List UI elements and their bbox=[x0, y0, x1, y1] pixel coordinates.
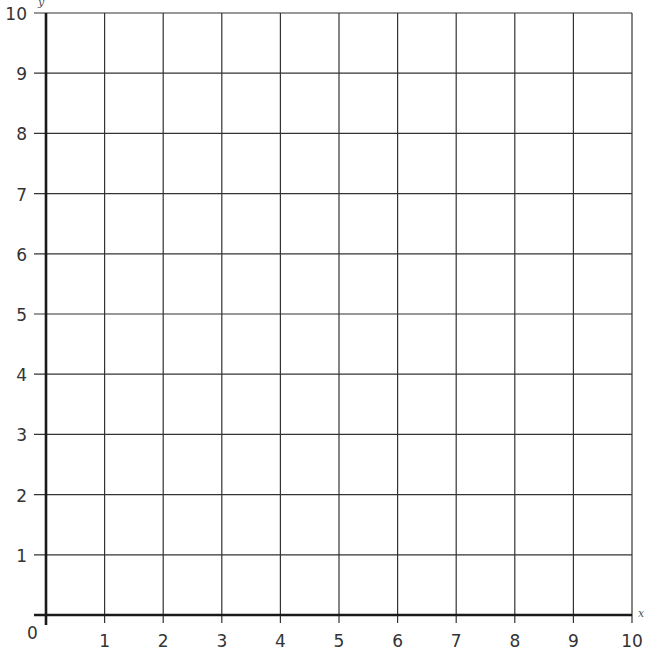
x-axis-label: x bbox=[638, 607, 645, 620]
axes bbox=[34, 13, 632, 625]
y-tick-label: 3 bbox=[16, 425, 27, 445]
grid-lines bbox=[34, 13, 632, 623]
x-tick-label: 4 bbox=[275, 631, 286, 651]
y-tick-label: 10 bbox=[5, 4, 27, 24]
y-tick-label: 4 bbox=[16, 365, 27, 385]
x-tick-label: 9 bbox=[568, 631, 579, 651]
y-tick-label: 1 bbox=[16, 546, 27, 566]
x-tick-label: 8 bbox=[509, 631, 520, 651]
x-axis-ticks: 12345678910 bbox=[99, 631, 643, 651]
y-tick-label: 9 bbox=[16, 64, 27, 84]
x-tick-label: 1 bbox=[99, 631, 110, 651]
y-tick-label: 2 bbox=[16, 486, 27, 506]
y-tick-label: 5 bbox=[16, 305, 27, 325]
coordinate-grid: 12345678910 12345678910 0 y x bbox=[0, 0, 645, 666]
x-tick-label: 10 bbox=[621, 631, 643, 651]
x-tick-label: 3 bbox=[216, 631, 227, 651]
y-tick-label: 6 bbox=[16, 245, 27, 265]
x-tick-label: 5 bbox=[334, 631, 345, 651]
y-tick-label: 8 bbox=[16, 124, 27, 144]
y-axis-ticks: 12345678910 bbox=[5, 4, 27, 566]
x-tick-label: 7 bbox=[451, 631, 462, 651]
x-tick-label: 6 bbox=[392, 631, 403, 651]
x-tick-label: 2 bbox=[158, 631, 169, 651]
y-tick-label: 7 bbox=[16, 185, 27, 205]
y-axis-label: y bbox=[37, 0, 45, 9]
origin-label: 0 bbox=[27, 623, 38, 643]
